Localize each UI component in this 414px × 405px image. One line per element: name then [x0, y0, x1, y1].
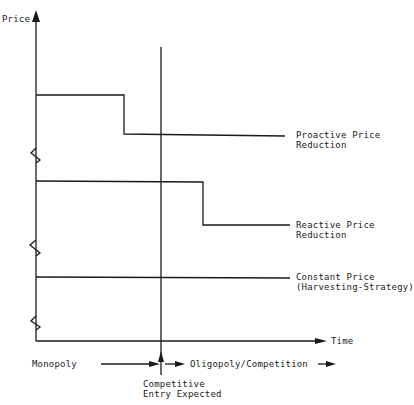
- x-axis-arrow-icon: [315, 338, 327, 344]
- continue-arrowhead-icon: [326, 361, 336, 367]
- entry-label-2: Entry Expected: [143, 388, 222, 400]
- oligopoly-label: Oligopoly/Competition: [190, 358, 308, 370]
- monopoly-label: Monopoly: [32, 358, 77, 370]
- constant-price-line: [36, 277, 290, 278]
- y-axis-label: Price: [2, 13, 30, 25]
- reactive-price-line: [36, 181, 290, 225]
- entry-arrow-icon: [158, 351, 164, 362]
- constant-label-2: (Harvesting-Strategy): [296, 281, 414, 293]
- axis-break-icon: [30, 240, 40, 256]
- proactive-label-2: Reduction: [296, 139, 347, 151]
- x-axis-label: Time: [331, 335, 353, 347]
- oligopoly-arrowhead-icon: [175, 361, 185, 367]
- reactive-label-2: Reduction: [296, 229, 347, 241]
- y-axis-arrow-icon: [32, 10, 40, 22]
